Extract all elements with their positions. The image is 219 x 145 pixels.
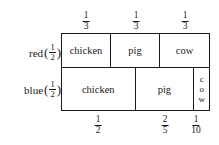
row-label-blue-text: blue [24, 84, 43, 96]
bottom-label-column-2-denominator: 5 [162, 126, 169, 136]
row-label-red-fraction-denominator: 2 [49, 53, 55, 62]
bottom-label-column-2: 2 5 [162, 115, 169, 136]
row-label-blue: blue ( 1 2 ) [24, 80, 61, 99]
row-label-blue-fraction-numerator: 1 [49, 80, 55, 90]
bottom-label-column-1-numerator: 1 [95, 115, 102, 126]
cell-blue-pig-label: pig [158, 84, 171, 95]
row-label-red-fraction-numerator: 1 [49, 43, 55, 53]
cell-blue-cow-label: cow [198, 74, 205, 104]
top-label-column-3: 1 3 [182, 11, 189, 32]
cell-red-pig[interactable]: pig [111, 34, 160, 67]
row-label-red-open-paren: ( [44, 45, 48, 61]
top-label-column-3-fraction: 1 3 [182, 11, 189, 32]
top-label-column-2-fraction: 1 3 [133, 11, 140, 32]
stacked-letter: w [198, 94, 205, 104]
top-label-column-1-numerator: 1 [83, 11, 90, 22]
cell-red-chicken[interactable]: chicken [62, 34, 111, 67]
bottom-label-column-2-numerator: 2 [162, 115, 169, 126]
row-label-red: red ( 1 2 ) [29, 43, 61, 62]
top-label-column-1-denominator: 3 [83, 22, 90, 32]
area-model-grid: chicken pig cow chicken pig cow [61, 33, 210, 111]
grid-row-blue: chicken pig cow [62, 68, 209, 110]
row-label-blue-open-paren: ( [44, 82, 48, 98]
stacked-letter: o [199, 84, 204, 94]
cell-blue-chicken-label: chicken [82, 84, 115, 95]
top-label-column-1-fraction: 1 3 [83, 11, 90, 32]
top-label-column-2: 1 3 [133, 11, 140, 32]
bottom-label-column-2-fraction: 2 5 [162, 115, 169, 136]
bottom-label-column-1-fraction: 1 2 [95, 115, 102, 136]
top-label-column-3-numerator: 1 [182, 11, 189, 22]
row-label-red-fraction: 1 2 [49, 43, 55, 62]
cell-blue-pig[interactable]: pig [136, 68, 195, 110]
row-label-red-text: red [29, 47, 43, 59]
bottom-label-column-3-numerator: 1 [193, 115, 200, 126]
cell-red-chicken-label: chicken [70, 45, 103, 56]
cell-red-cow-label: cow [176, 45, 194, 56]
top-label-column-3-denominator: 3 [182, 22, 189, 32]
top-label-column-2-numerator: 1 [133, 11, 140, 22]
cell-blue-cow[interactable]: cow [194, 68, 209, 110]
top-label-column-1: 1 3 [83, 11, 90, 32]
area-model-figure: red ( 1 2 ) blue ( 1 2 ) 1 3 1 3 1 3 [0, 0, 219, 145]
bottom-label-column-1-denominator: 2 [95, 126, 102, 136]
grid-row-red: chicken pig cow [62, 34, 209, 68]
row-label-blue-fraction-denominator: 2 [49, 90, 55, 99]
stacked-letter: c [200, 74, 204, 84]
bottom-label-column-3-denominator: 10 [190, 126, 202, 136]
bottom-label-column-3: 1 10 [190, 115, 202, 136]
cell-red-cow[interactable]: cow [160, 34, 209, 67]
bottom-label-column-1: 1 2 [95, 115, 102, 136]
cell-red-pig-label: pig [128, 45, 141, 56]
cell-blue-chicken[interactable]: chicken [62, 68, 136, 110]
row-label-blue-fraction: 1 2 [49, 80, 55, 99]
bottom-label-column-3-fraction: 1 10 [190, 115, 202, 136]
top-label-column-2-denominator: 3 [133, 22, 140, 32]
